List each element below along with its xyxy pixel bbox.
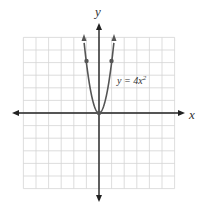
x-axis-left-arrow-icon [12, 110, 19, 116]
y-axis-down-arrow-icon [96, 195, 102, 202]
point-origin [97, 111, 101, 115]
point-1-4 [109, 59, 113, 63]
equation-label: y = 4x2 [116, 74, 147, 86]
x-axis-right-arrow-icon [178, 110, 185, 116]
y-axis-up-arrow-icon [96, 23, 102, 30]
coordinate-plane: y x y = 4x2 [0, 0, 200, 211]
y-axis-label: y [93, 4, 101, 19]
x-axis-label: x [188, 107, 195, 122]
point-neg1-4 [84, 59, 88, 63]
